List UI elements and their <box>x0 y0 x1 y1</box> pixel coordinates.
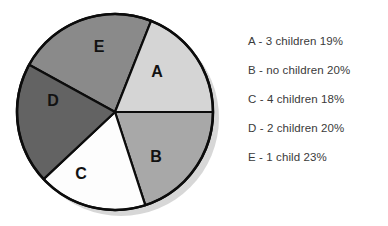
pie-slice-label-b: B <box>150 148 162 165</box>
legend-item-b: B - no children 20% <box>248 65 386 94</box>
pie-chart-page: A B C D E A - 3 children 19% B - no chil… <box>0 0 388 226</box>
legend-item-d: D - 2 children 20% <box>248 123 386 152</box>
pie-slice-label-c: C <box>75 165 87 182</box>
legend-item-c: C - 4 children 18% <box>248 94 386 123</box>
pie-chart-legend: A - 3 children 19% B - no children 20% C… <box>248 36 386 181</box>
pie-slice-label-e: E <box>94 38 105 55</box>
pie-chart-figure: A B C D E <box>0 0 236 226</box>
legend-item-a: A - 3 children 19% <box>248 36 386 65</box>
pie-chart-svg: A B C D E <box>0 0 236 226</box>
legend-item-e: E - 1 child 23% <box>248 152 386 181</box>
pie-slice-label-a: A <box>151 63 163 80</box>
pie-slice-label-d: D <box>47 92 59 109</box>
